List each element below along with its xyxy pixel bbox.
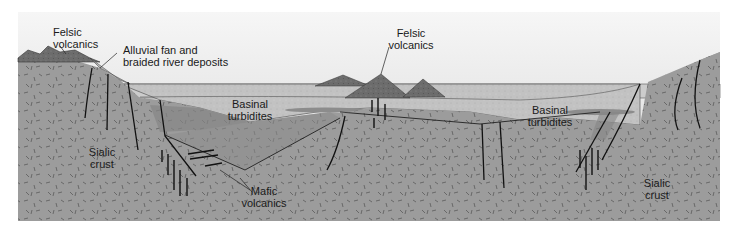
label-alluvial-fan: Alluvial fan and braided river deposits <box>123 44 228 68</box>
label-basinal-turbidites-right: Basinal turbidites <box>520 104 580 128</box>
label-sialic-crust-right: Sialic crust <box>637 177 677 201</box>
label-felsic-volcanics-center: Felsic volcanics <box>383 27 439 51</box>
rift-basin-cross-section: Felsic volcanics Alluvial fan and braide… <box>0 0 737 236</box>
label-basinal-turbidites-left: Basinal turbidites <box>220 98 280 122</box>
label-felsic-volcanics-left: Felsic volcanics <box>53 26 98 50</box>
label-mafic-volcanics: Mafic volcanics <box>236 185 292 209</box>
label-sialic-crust-left: Sialic crust <box>82 146 122 170</box>
cross-section-drawing <box>0 0 737 236</box>
